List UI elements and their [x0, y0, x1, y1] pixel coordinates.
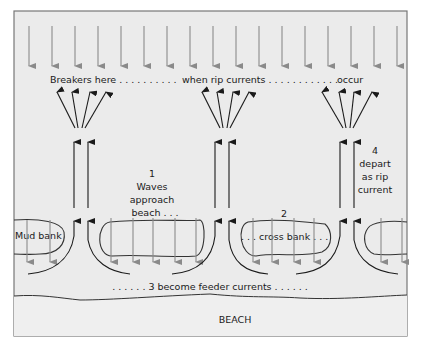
- step-2-label: . . . cross bank . . .: [241, 231, 328, 242]
- step-1-line-3: beach . . .: [131, 207, 178, 218]
- rip-currents-label: when rip currents . . . . . . . . . . . …: [182, 74, 338, 85]
- beach-label: BEACH: [219, 314, 252, 325]
- occur-label: occur: [337, 74, 363, 85]
- mud-bank-label: Mud bank: [15, 230, 62, 241]
- step-4-line-2: as rip: [362, 171, 388, 182]
- step-4-line-1: depart: [359, 158, 391, 169]
- beach-area: [14, 294, 407, 336]
- breakers-label: Breakers here . . . . . . . . . .: [50, 74, 177, 85]
- rip-current-diagram: Breakers here . . . . . . . . . . when r…: [0, 0, 421, 347]
- step-1-line-2: approach: [130, 194, 174, 205]
- step-2-number: 2: [281, 208, 287, 219]
- step-1-number: 1: [149, 168, 155, 179]
- step-1-line-1: Waves: [136, 181, 167, 192]
- step-3-label: . . . . . . 3 become feeder currents . .…: [112, 281, 308, 292]
- step-4-line-3: current: [358, 184, 393, 195]
- step-4-number: 4: [372, 145, 378, 156]
